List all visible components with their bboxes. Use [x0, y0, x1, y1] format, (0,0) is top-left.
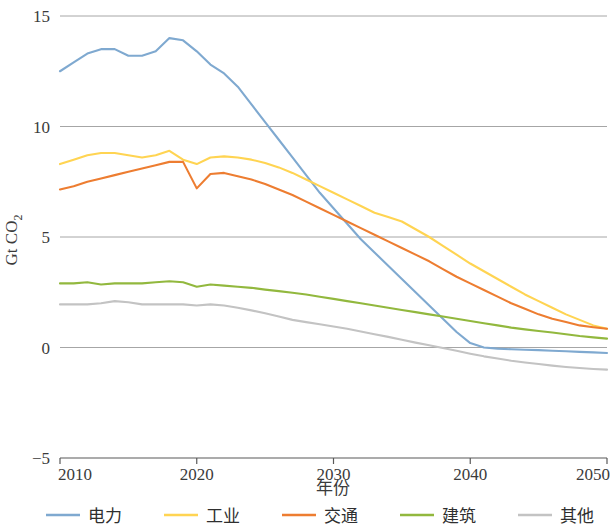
x-tick-label-2010: 2010: [58, 465, 92, 484]
y-tick-label-0: 0: [42, 339, 51, 358]
x-axis: [60, 458, 607, 464]
x-tick-label-2040: 2040: [453, 465, 487, 484]
legend-label-0: 电力: [88, 507, 122, 526]
series-line-0: [60, 38, 607, 353]
y-tick-label-10: 10: [33, 118, 50, 137]
legend-label-4: 其他: [560, 507, 594, 526]
x-tick-label-2020: 2020: [180, 465, 214, 484]
y-tick-label-5: 5: [42, 228, 51, 247]
series-line-4: [60, 301, 607, 370]
gridlines: [60, 16, 607, 348]
data-series-group: [60, 38, 607, 370]
legend-label-1: 工业: [206, 507, 240, 526]
line-chart: 151050−5 20102020203020402050 年份 Gt CO2 …: [0, 0, 616, 529]
y-tick-label-15: 15: [33, 7, 50, 26]
chart-canvas: 151050−5 20102020203020402050 年份 Gt CO2 …: [0, 0, 616, 529]
series-line-1: [60, 151, 607, 329]
x-axis-title: 年份: [316, 479, 350, 498]
y-axis-title: Gt CO2: [2, 215, 25, 266]
y-tick-label--5: −5: [32, 449, 50, 468]
legend-label-2: 交通: [324, 507, 358, 526]
y-axis-tick-labels: 151050−5: [32, 7, 50, 468]
legend: 电力工业交通建筑其他: [46, 507, 594, 526]
legend-label-3: 建筑: [442, 507, 476, 526]
x-tick-label-2050: 2050: [576, 465, 610, 484]
